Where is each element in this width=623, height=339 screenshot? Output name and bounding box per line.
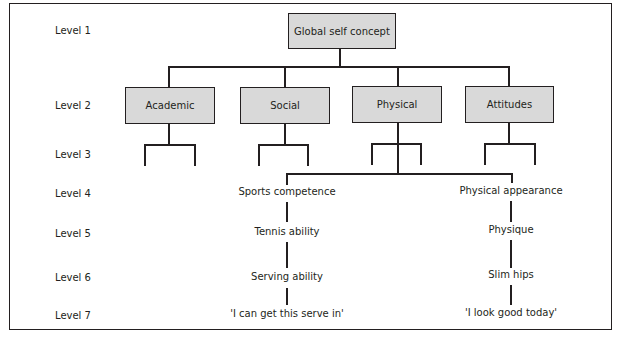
slim-hips-node: Slim hips — [488, 269, 534, 280]
level-5-label: Level 5 — [55, 228, 91, 239]
level-1-label: Level 1 — [55, 25, 91, 36]
connector — [371, 143, 421, 145]
connector — [534, 143, 536, 165]
serve-quote-node: 'I can get this serve in' — [230, 308, 344, 319]
connector — [286, 242, 288, 268]
connector — [420, 143, 422, 165]
connector — [510, 285, 512, 305]
connector — [286, 202, 288, 222]
level-3-label: Level 3 — [55, 149, 91, 160]
connector — [284, 124, 286, 145]
connector — [397, 66, 399, 87]
physical-appearance-node: Physical appearance — [459, 185, 562, 196]
connector — [258, 144, 260, 166]
connector — [284, 66, 286, 87]
connector — [168, 66, 170, 87]
connector — [508, 66, 510, 87]
sports-competence-node: Sports competence — [238, 186, 335, 197]
connector — [194, 144, 196, 166]
connector — [307, 144, 309, 166]
connector — [144, 144, 146, 166]
global-self-concept-box: Global self concept — [288, 13, 396, 49]
connector — [168, 66, 509, 68]
connector — [144, 144, 195, 146]
social-box: Social — [240, 87, 330, 124]
attitudes-box: Attitudes — [465, 86, 554, 123]
level-2-label: Level 2 — [55, 100, 91, 111]
look-good-quote-node: 'I look good today' — [465, 307, 557, 318]
physique-node: Physique — [488, 224, 533, 235]
connector — [371, 143, 373, 165]
connector — [286, 288, 288, 305]
connector — [168, 124, 170, 145]
connector — [484, 143, 535, 145]
level-4-label: Level 4 — [55, 188, 91, 199]
tennis-ability-node: Tennis ability — [254, 226, 319, 237]
connector — [258, 144, 308, 146]
level-6-label: Level 6 — [55, 272, 91, 283]
level-7-label: Level 7 — [55, 310, 91, 321]
connector — [286, 173, 288, 185]
connector — [510, 201, 512, 222]
connector — [511, 173, 513, 183]
connector — [286, 173, 512, 175]
connector — [508, 123, 510, 144]
connector — [510, 240, 512, 268]
connector — [484, 143, 486, 165]
physical-box: Physical — [352, 86, 442, 123]
connector — [397, 123, 399, 173]
connector — [339, 49, 341, 67]
serving-ability-node: Serving ability — [251, 271, 323, 282]
academic-box: Academic — [125, 87, 215, 124]
